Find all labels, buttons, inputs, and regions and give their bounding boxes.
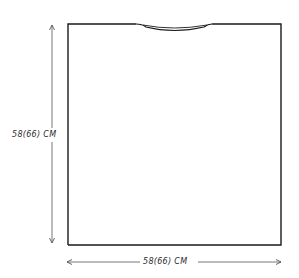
height-dimension-label: 58(66) CM xyxy=(11,130,57,140)
neckline-curve xyxy=(136,24,212,31)
width-dimension-label: 58(66) CM xyxy=(140,257,190,267)
body-panel-outline xyxy=(68,24,281,245)
